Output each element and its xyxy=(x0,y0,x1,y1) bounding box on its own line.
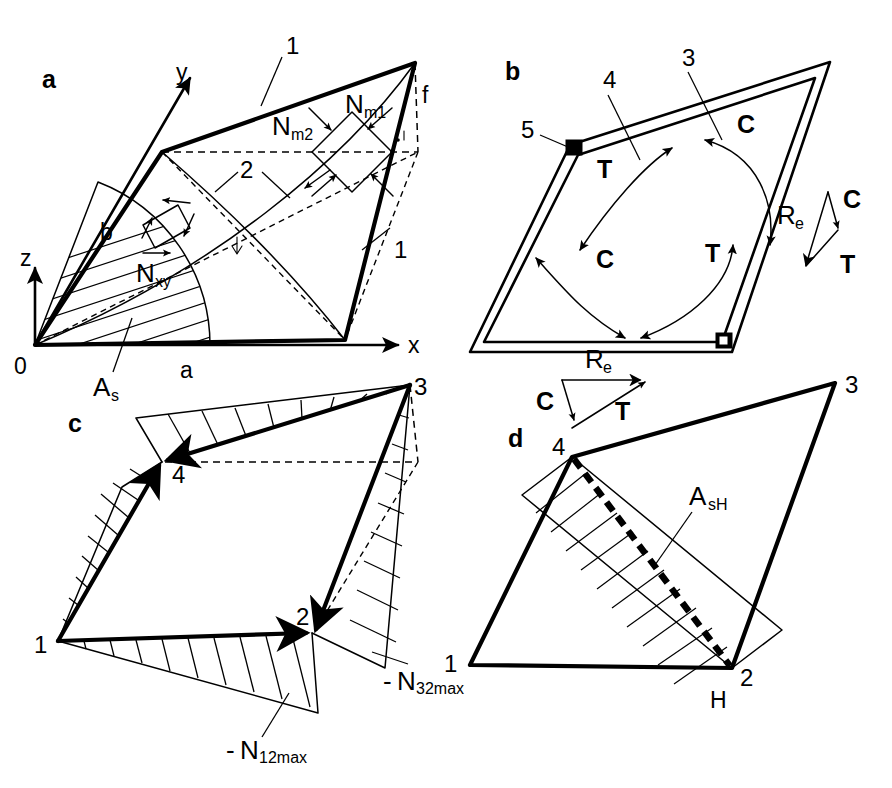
nm2-symbol: N xyxy=(272,111,291,141)
dash-diagonal-1 xyxy=(162,152,345,340)
shear-arrow-top xyxy=(163,200,190,203)
panel-b-callouts: 5 4 3 xyxy=(521,44,722,160)
nm1-arrow-in-2 xyxy=(312,175,336,196)
callout-4-leader xyxy=(608,95,640,160)
n32max-subscript: 32max xyxy=(416,680,464,697)
reinforcement-area-symbol: A xyxy=(93,372,111,402)
callout-1-right-label: 1 xyxy=(394,236,407,263)
ftb-label-c: C xyxy=(536,387,554,415)
arc-label-c-top: C xyxy=(737,110,755,138)
nm1-subscript: m1 xyxy=(364,104,386,121)
dash-rise-f xyxy=(415,63,418,152)
nxy-subscript: xy xyxy=(155,273,171,290)
technical-figure: a x z y 0 a b f xyxy=(0,0,892,788)
edge-3-4 xyxy=(168,385,410,460)
edge-1-4 xyxy=(58,466,159,641)
arc-label-c-bottom: C xyxy=(596,245,614,273)
ftr-label-re-sub: e xyxy=(795,215,804,232)
node-5-block xyxy=(566,140,582,155)
side-a-label: a xyxy=(180,357,193,383)
reinforcement-area-subscript: s xyxy=(111,387,119,404)
panel-b: b C T C T xyxy=(470,44,861,428)
callout-5-label: 5 xyxy=(521,116,534,143)
fan-hatching xyxy=(0,198,250,470)
rise-f-label: f xyxy=(422,82,429,108)
callout-1-top-label: 1 xyxy=(286,32,299,59)
panel-d-corner-4: 4 xyxy=(552,433,565,460)
axis-y-label: y xyxy=(176,59,188,85)
arc-label-t-bottom: T xyxy=(705,239,720,267)
n12max-sign: - xyxy=(226,735,235,765)
panel-c-letter: c xyxy=(68,409,82,437)
force-triangle-bottom: R e C T xyxy=(536,344,645,428)
ftb-label-t: T xyxy=(615,397,630,425)
fan-outline xyxy=(35,182,210,345)
panel-c-corner-2: 2 xyxy=(296,603,309,630)
callout-2-label: 2 xyxy=(240,156,253,183)
ftb-vector-c xyxy=(562,380,574,420)
panel-a-letter: a xyxy=(42,65,57,93)
shear-element-parallelogram xyxy=(143,205,190,248)
n32max-symbol: N xyxy=(397,666,416,696)
fd12-outline xyxy=(58,633,318,713)
callout-4-label: 4 xyxy=(603,66,616,93)
force-triangle-right: R e C T xyxy=(777,185,861,278)
panel-c: c xyxy=(34,373,464,766)
n32max-leader xyxy=(372,652,408,664)
panel-c-corner-4: 4 xyxy=(172,461,185,488)
arc-label-t-top: T xyxy=(597,155,612,183)
force-diagram-edge-1-2: - N 12max xyxy=(58,633,318,766)
panel-d-corner-2: 2 xyxy=(740,664,753,691)
reinforcement-bar-line xyxy=(574,459,730,666)
fd12-rungs xyxy=(84,635,310,707)
dash-hidden-c xyxy=(316,462,418,629)
ftr-vector-c xyxy=(828,192,838,228)
n12max-leader xyxy=(262,693,289,737)
label-h: H xyxy=(710,687,727,713)
panel-c-corner-3: 3 xyxy=(414,373,427,400)
panel-c-corner-1: 1 xyxy=(34,631,47,658)
callout-1-top-leader xyxy=(261,57,282,106)
ftb-label-re-sub: e xyxy=(603,359,612,376)
panel-b-edge-beam-frame xyxy=(470,62,830,352)
shear-arrow-right xyxy=(184,214,194,236)
ash-subscript: sH xyxy=(708,496,728,513)
panel-d-letter: d xyxy=(508,424,523,452)
generator-arrow-a xyxy=(305,170,330,188)
axis-z-label: z xyxy=(20,245,32,271)
edge-beam-outer xyxy=(470,62,830,352)
callout-2-leader-left xyxy=(215,172,238,192)
panel-c-corner-labels: 1 2 3 4 xyxy=(34,373,427,658)
panel-d-corner-1: 1 xyxy=(444,650,457,677)
edge-1-2 xyxy=(58,633,306,641)
right-angle-dot xyxy=(396,138,400,142)
shear-arrow-left xyxy=(142,218,152,238)
n32max-sign: - xyxy=(383,666,392,696)
shear-force-element: N xy xyxy=(136,200,194,290)
n12max-subscript: 12max xyxy=(259,749,307,766)
panel-d-boundary xyxy=(470,383,835,668)
nxy-symbol: N xyxy=(136,258,155,288)
callout-1-right-leader xyxy=(362,228,390,250)
axis-origin-label: 0 xyxy=(14,353,27,379)
arc-tension-upper xyxy=(580,148,672,250)
panel-d-corner-3: 3 xyxy=(845,371,858,398)
ash-symbol: A xyxy=(689,481,707,511)
panel-b-letter: b xyxy=(505,57,520,85)
ash-leader xyxy=(655,512,692,565)
nm1-symbol: N xyxy=(345,89,364,119)
force-diagram-edge-3-2: - N 32max xyxy=(312,385,464,697)
fd14-rungs xyxy=(63,469,149,623)
node-bottom-right-inner xyxy=(719,336,728,345)
figure-root: a x z y 0 a b f xyxy=(0,0,892,788)
panel-d: d A sH xyxy=(444,371,858,713)
ftr-label-c: C xyxy=(843,185,861,213)
panel-d-corner-labels: 1 2 3 4 xyxy=(444,371,858,691)
panel-d-frame xyxy=(470,383,835,668)
ftr-label-t: T xyxy=(840,250,855,278)
axis-x-label: x xyxy=(408,332,420,358)
n12max-symbol: N xyxy=(240,735,259,765)
reinforcement-fan-region: A s xyxy=(0,182,250,470)
fd32-rungs xyxy=(350,415,409,642)
callout-5-leader xyxy=(540,135,568,147)
